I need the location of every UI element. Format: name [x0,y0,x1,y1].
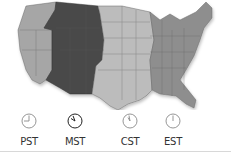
eastern-zone [150,2,212,108]
zone-label-cst: CST [115,136,145,147]
clock-cst [122,113,138,129]
clock-est [165,113,181,129]
clock-mst [67,113,83,129]
divider [0,151,231,152]
us-time-zone-map [0,0,231,110]
pacific-zone [18,2,56,84]
zone-label-mst: MST [60,136,90,147]
zone-label-est: EST [158,136,188,147]
zone-label-pst: PST [14,136,44,147]
clock-pst [21,113,37,129]
